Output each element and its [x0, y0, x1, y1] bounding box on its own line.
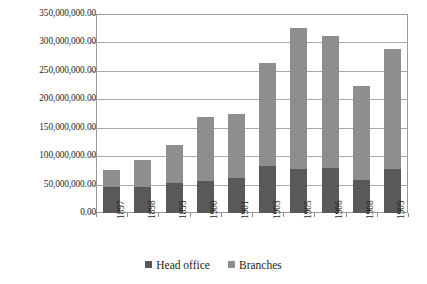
y-axis-tick-label: 50,000,000.00 — [6, 179, 96, 189]
bars-layer — [96, 14, 408, 213]
legend-item[interactable]: Branches — [228, 258, 282, 271]
x-axis-tick-mark — [408, 213, 409, 217]
x-axis-tick-label: 1909 — [396, 200, 406, 219]
legend-item[interactable]: Head office — [145, 258, 210, 271]
x-axis-tick-mark — [190, 213, 191, 217]
stacked-bar-chart: 350,000,000.00300,000,000.00250,000,000.… — [0, 0, 427, 284]
bar-segment-branches — [197, 117, 214, 180]
x-axis-tick-mark — [314, 213, 315, 217]
bar-segment-branches — [103, 170, 120, 188]
bar-column — [197, 14, 214, 213]
bar-segment-branches — [353, 86, 370, 180]
y-axis-tick-label: 300,000,000.00 — [6, 36, 96, 46]
bar-segment-branches — [228, 114, 245, 178]
x-axis-tick-mark — [158, 213, 159, 217]
bar-column — [259, 14, 276, 213]
x-axis-tick-label: 1899 — [178, 200, 188, 219]
x-axis-tick-mark — [127, 213, 128, 217]
x-axis-tick-mark — [96, 213, 97, 217]
bar-column — [290, 14, 307, 213]
y-axis-tick-label: 150,000,000.00 — [6, 122, 96, 132]
bar-segment-branches — [322, 36, 339, 168]
x-axis-tick-label: 1903 — [272, 200, 282, 219]
x-axis-tick-label: 1897 — [116, 200, 126, 219]
y-axis-tick-label: 0.00 — [6, 207, 96, 217]
x-axis-tick-label: 1898 — [147, 200, 157, 219]
x-axis-tick-mark — [252, 213, 253, 217]
bar-column — [322, 14, 339, 213]
legend-label: Branches — [239, 259, 282, 271]
bar-segment-branches — [259, 63, 276, 166]
bar-segment-branches — [290, 28, 307, 168]
y-axis-tick-label: 350,000,000.00 — [6, 8, 96, 18]
bar-segment-branches — [166, 145, 183, 183]
bar-segment-branches — [134, 160, 151, 187]
legend-swatch-icon — [145, 261, 152, 268]
legend-label: Head office — [156, 259, 210, 271]
y-axis-tick-label: 200,000,000.00 — [6, 93, 96, 103]
y-axis-tick-label: 250,000,000.00 — [6, 65, 96, 75]
bar-column — [134, 14, 151, 213]
x-axis-tick-mark — [346, 213, 347, 217]
x-axis-tick-label: 1905 — [303, 200, 313, 219]
x-axis-tick-mark — [221, 213, 222, 217]
x-axis-tick-label: 1901 — [240, 200, 250, 219]
legend-swatch-icon — [228, 261, 235, 268]
bar-column — [384, 14, 401, 213]
y-axis-tick-label: 100,000,000.00 — [6, 150, 96, 160]
x-axis-tick-mark — [283, 213, 284, 217]
x-axis-tick-mark — [377, 213, 378, 217]
x-axis-tick-label: 1900 — [209, 200, 219, 219]
bar-column — [353, 14, 370, 213]
bar-column — [228, 14, 245, 213]
chart-legend: Head officeBranches — [0, 258, 427, 271]
bar-segment-branches — [384, 49, 401, 168]
bar-column — [103, 14, 120, 213]
x-axis-tick-label: 1906 — [334, 200, 344, 219]
x-axis-tick-label: 1908 — [365, 200, 375, 219]
bar-column — [166, 14, 183, 213]
